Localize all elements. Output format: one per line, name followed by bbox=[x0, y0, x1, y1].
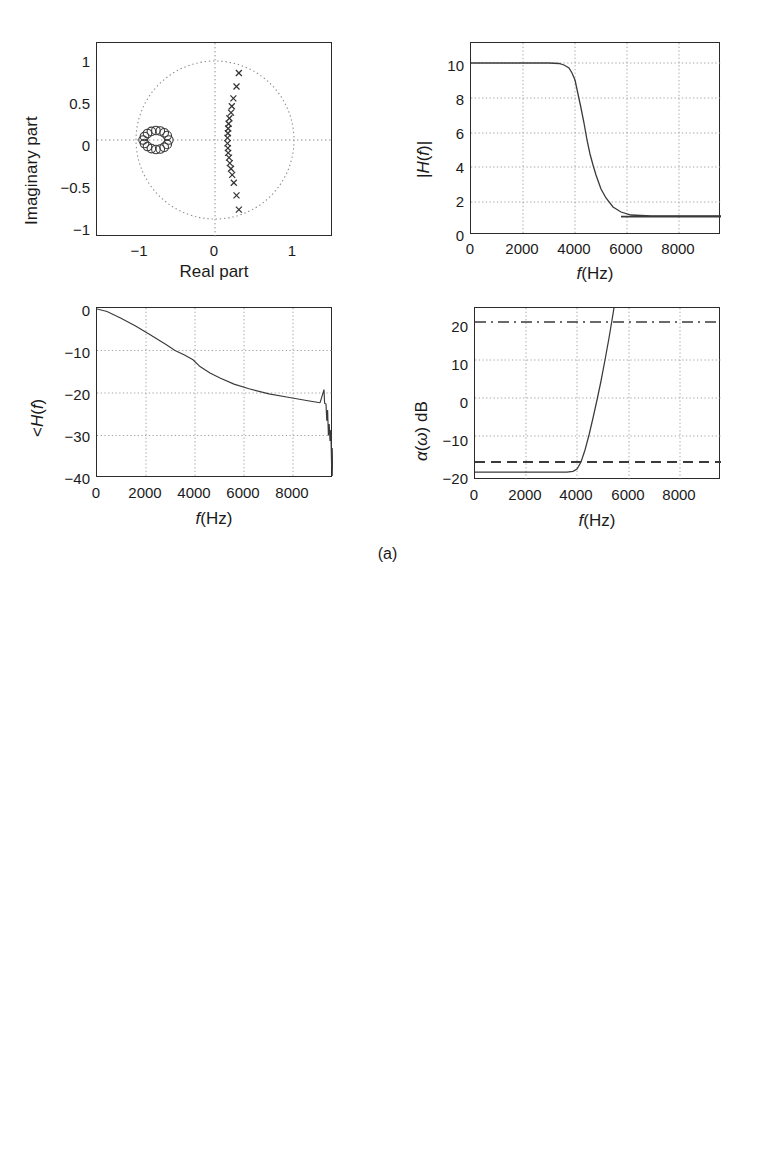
figure-group-a: Imaginary part 1 0.5 0 −0.5 −1 bbox=[0, 0, 775, 570]
xtick-a-pz-0: −1 bbox=[119, 243, 159, 258]
subcaption-a: (a) bbox=[0, 545, 775, 563]
xtick-a-ph-3: 6000 bbox=[217, 485, 269, 500]
ytick-a-ph-3: −30 bbox=[36, 429, 90, 444]
xtick-a-ph-2: 4000 bbox=[168, 485, 220, 500]
panel-a-magnitude: |H(f)| 10 8 6 4 2 0 bbox=[388, 0, 775, 285]
panel-a-phase: <H(f) 0 −10 −20 −30 −40 0 2000 bbox=[0, 285, 388, 570]
xtick-a-mag-1: 2000 bbox=[496, 241, 548, 256]
ytick-a-pz-1: 0.5 bbox=[48, 96, 90, 111]
pole-markers bbox=[225, 70, 242, 213]
axis-title-frequency-a-ph: f(Hz) bbox=[96, 509, 332, 529]
ytick-a-pz-3: −0.5 bbox=[40, 180, 90, 195]
attenuation-curve bbox=[475, 308, 614, 472]
xtick-a-ph-0: 0 bbox=[76, 485, 116, 500]
xtick-a-mag-0: 0 bbox=[450, 241, 490, 256]
magnitude-curve bbox=[471, 63, 721, 216]
ytick-a-ph-4: −40 bbox=[36, 471, 90, 486]
panel-a-attenuation: α(ω) dB 20 10 0 −10 −20 0 bbox=[388, 285, 775, 570]
ytick-a-pz-2: 0 bbox=[48, 138, 90, 153]
ytick-a-ph-0: 0 bbox=[36, 303, 90, 318]
ytick-a-mag-3: 4 bbox=[418, 160, 464, 175]
xtick-a-mag-3: 6000 bbox=[600, 241, 652, 256]
xtick-a-att-0: 0 bbox=[454, 487, 494, 502]
xtick-a-att-4: 8000 bbox=[653, 487, 705, 502]
xtick-a-pz-1: 0 bbox=[194, 243, 234, 258]
ytick-a-att-4: −20 bbox=[414, 471, 468, 486]
figure-page: Imaginary part 1 0.5 0 −0.5 −1 bbox=[0, 0, 775, 1164]
zero-markers bbox=[139, 126, 173, 154]
ytick-a-att-2: 0 bbox=[418, 395, 468, 410]
xtick-a-att-2: 4000 bbox=[550, 487, 602, 502]
ytick-a-pz-0: 1 bbox=[48, 54, 90, 69]
ytick-a-mag-2: 6 bbox=[418, 126, 464, 141]
ytick-a-ph-2: −20 bbox=[36, 387, 90, 402]
axis-title-frequency-a-mag: f(Hz) bbox=[470, 264, 720, 284]
ytick-a-mag-1: 8 bbox=[418, 92, 464, 107]
xtick-a-att-3: 6000 bbox=[602, 487, 654, 502]
xtick-a-mag-2: 4000 bbox=[548, 241, 600, 256]
axis-title-real-part: Real part bbox=[96, 262, 332, 282]
figure-group-b: Imaginary part 1 0.5 0 −0.5 −1 bbox=[0, 570, 775, 1140]
plot-frame-a-attenuation bbox=[474, 307, 720, 479]
xtick-a-mag-4: 8000 bbox=[652, 241, 704, 256]
ytick-a-att-1: 10 bbox=[418, 357, 468, 372]
xtick-a-ph-1: 2000 bbox=[119, 485, 171, 500]
phase-curve bbox=[97, 309, 320, 403]
ytick-a-att-0: 20 bbox=[418, 319, 468, 334]
xtick-a-pz-2: 1 bbox=[272, 243, 312, 258]
axis-title-attenuation: α(ω) dB bbox=[412, 401, 432, 461]
axis-title-frequency-a-att: f(Hz) bbox=[474, 511, 720, 531]
ytick-a-pz-4: −1 bbox=[40, 222, 90, 237]
plot-frame-a-phase bbox=[96, 307, 332, 477]
ytick-a-mag-0: 10 bbox=[418, 58, 464, 73]
plot-frame-a-pole-zero bbox=[96, 42, 332, 236]
ytick-a-ph-1: −10 bbox=[36, 345, 90, 360]
axis-title-imaginary-part: Imaginary part bbox=[22, 116, 42, 225]
xtick-a-ph-4: 8000 bbox=[266, 485, 318, 500]
ytick-a-att-3: −10 bbox=[414, 433, 468, 448]
xtick-a-att-1: 2000 bbox=[499, 487, 551, 502]
panel-a-pole-zero: Imaginary part 1 0.5 0 −0.5 −1 bbox=[0, 0, 388, 285]
ytick-a-mag-4: 2 bbox=[418, 194, 464, 209]
plot-frame-a-magnitude bbox=[470, 42, 720, 234]
